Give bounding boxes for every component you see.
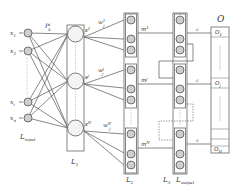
svg-text:x2: x2 xyxy=(10,47,16,56)
l1-node-sj xyxy=(68,73,84,89)
l1-sN-label: sN xyxy=(85,120,92,127)
l1-to-l2-connections xyxy=(84,20,124,165)
m1-label: m1 xyxy=(141,25,149,32)
input-node-x1: x1 xyxy=(10,29,32,38)
input-to-l1-connections xyxy=(28,33,68,128)
input-node-x2: x2 xyxy=(10,47,32,56)
c2-label: c xyxy=(196,78,199,83)
svg-text:xi: xi xyxy=(10,98,15,107)
l1-node-sN xyxy=(68,120,84,136)
weight-wj-label: wjj xyxy=(98,66,105,76)
weight-wN-label: wNj xyxy=(103,121,112,131)
weight-p-label: Pik xyxy=(44,22,51,32)
input-node-xi: xi xyxy=(10,98,32,107)
layer-1-label: L1 xyxy=(70,158,78,167)
l1-s1-label: s1 xyxy=(85,26,90,33)
mN-label: mN xyxy=(141,140,150,147)
c1-label: c xyxy=(196,27,199,32)
layer-2: L2 m1 mj mN xyxy=(124,13,173,185)
layer-3-label: L3 xyxy=(162,176,171,185)
l1-node-s1 xyxy=(68,26,84,42)
output-layer: O O1 Oj ON xyxy=(211,14,229,154)
l1-sj-label: sj xyxy=(85,73,90,80)
svg-text:x1: x1 xyxy=(10,29,16,38)
layer-1: s1 sj sN L1 w1j wjj wNj xyxy=(67,18,124,167)
layer-2-label: L2 xyxy=(125,176,134,185)
svg-text:xn: xn xyxy=(10,114,16,123)
weight-w1-label: w1j xyxy=(98,18,105,28)
output-layer-label: Loutput xyxy=(175,176,194,185)
input-node-xn: xn xyxy=(10,114,32,123)
v-label: v xyxy=(196,138,199,143)
output-title: O xyxy=(217,14,225,24)
neural-network-diagram: x1 x2 xi xn Linput Pik s1 sj s xyxy=(0,0,242,194)
layer-3: L3 Loutput c c v xyxy=(159,13,211,185)
mj-label: mj xyxy=(141,76,148,83)
input-layer: x1 x2 xi xn Linput Pik xyxy=(10,22,68,142)
input-layer-label: Linput xyxy=(19,133,36,142)
